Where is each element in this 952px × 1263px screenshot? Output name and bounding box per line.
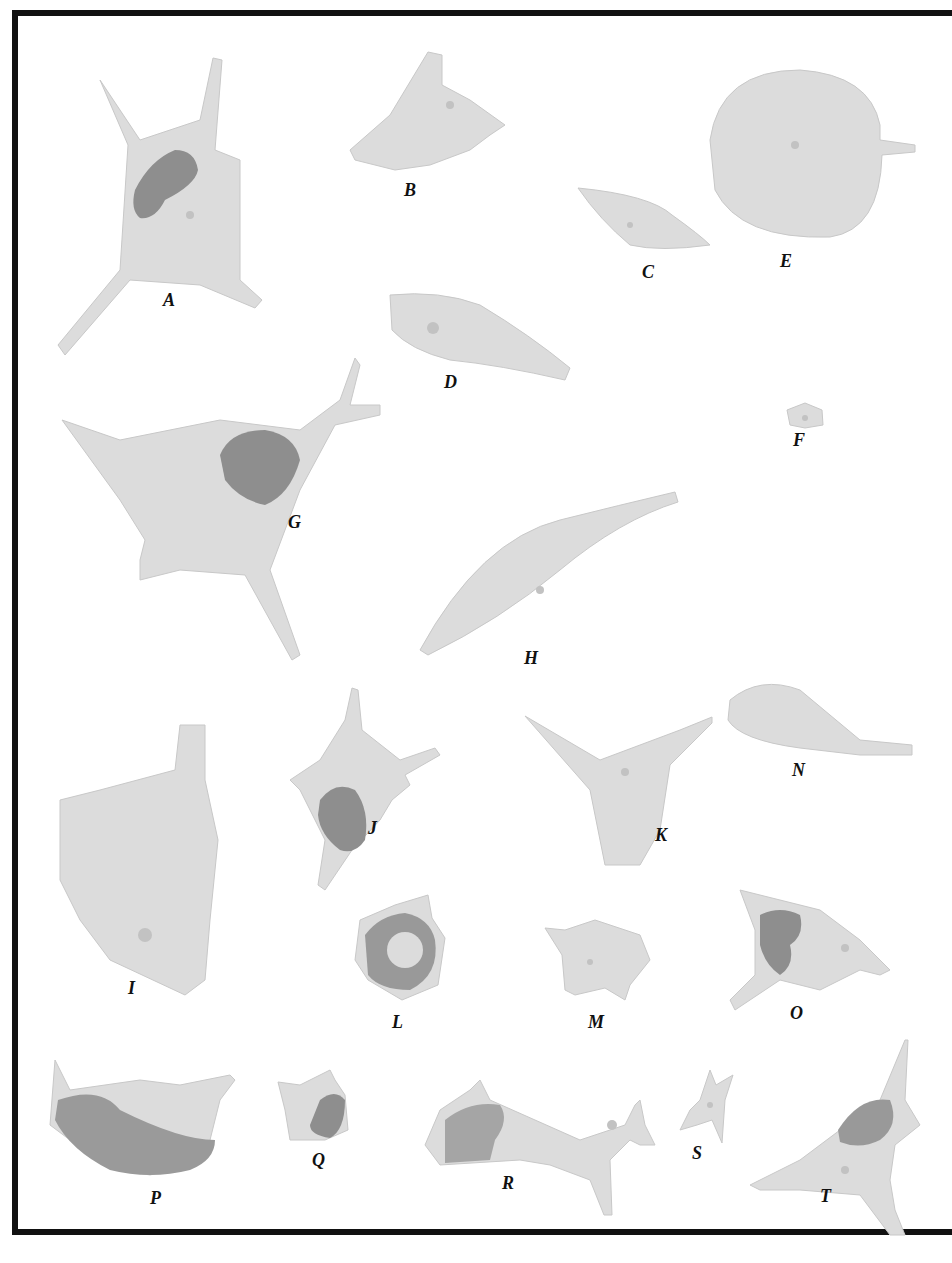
- label-H: H: [524, 648, 538, 669]
- label-R: R: [502, 1173, 514, 1194]
- label-S: S: [692, 1143, 702, 1164]
- label-G: G: [288, 512, 301, 533]
- label-L: L: [392, 1012, 403, 1033]
- label-A: A: [163, 290, 175, 311]
- label-K: K: [655, 825, 667, 846]
- label-F: F: [793, 430, 805, 451]
- label-Q: Q: [312, 1150, 325, 1171]
- label-T: T: [820, 1186, 831, 1207]
- label-O: O: [790, 1003, 803, 1024]
- label-M: M: [588, 1012, 604, 1033]
- label-E: E: [780, 251, 792, 272]
- label-J: J: [368, 818, 377, 839]
- cell-B: [350, 52, 505, 170]
- label-D: D: [444, 372, 457, 393]
- label-I: I: [128, 978, 135, 999]
- label-B: B: [404, 180, 416, 201]
- label-N: N: [792, 760, 805, 781]
- label-P: P: [150, 1188, 161, 1209]
- label-C: C: [642, 262, 654, 283]
